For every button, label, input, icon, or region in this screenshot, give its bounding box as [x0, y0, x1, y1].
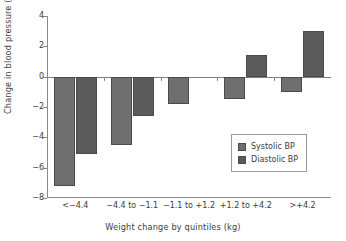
- legend-swatch-systolic-icon: [238, 143, 246, 151]
- bar-diastolic-1: [133, 77, 154, 116]
- bar-systolic-0: [54, 77, 75, 186]
- x-tick-mark-3: [217, 77, 218, 81]
- legend-label-diastolic: Diastolic BP: [251, 156, 298, 164]
- x-tick-label-4: >+4.2: [290, 202, 316, 210]
- y-tick-label: −2: [32, 103, 44, 111]
- y-tick-label: 4: [39, 12, 44, 20]
- y-tick-label: −6: [32, 164, 44, 172]
- y-axis-title: Change in blood pressure (mmHg): [3, 0, 17, 121]
- legend-item-systolic: Systolic BP: [238, 140, 298, 153]
- legend-item-diastolic: Diastolic BP: [238, 153, 298, 166]
- bar-systolic-3: [224, 77, 245, 100]
- bar-diastolic-3: [246, 55, 267, 76]
- x-tick-mark-0: [47, 77, 48, 81]
- bar-systolic-2: [168, 77, 189, 104]
- bar-systolic-1: [111, 77, 132, 145]
- x-tick-mark-4: [274, 77, 275, 81]
- x-tick-mark-1: [104, 77, 105, 81]
- x-tick-label-1: −4.4 to −1.1: [106, 202, 158, 210]
- bar-diastolic-4: [303, 31, 324, 77]
- y-tick-label: −8: [32, 194, 44, 202]
- y-tick-label: −4: [32, 133, 44, 141]
- bar-chart-figure: Change in blood pressure (mmHg) 420−2−4−…: [0, 0, 346, 241]
- legend-swatch-diastolic-icon: [238, 156, 246, 164]
- legend-label-systolic: Systolic BP: [251, 143, 295, 151]
- bar-diastolic-0: [76, 77, 97, 154]
- x-axis-line: [47, 197, 331, 198]
- x-tick-label-3: +1.2 to +4.2: [220, 202, 272, 210]
- y-tick-label: 0: [39, 73, 44, 81]
- x-axis-title: Weight change by quintiles (kg): [0, 222, 346, 232]
- bar-systolic-4: [281, 77, 302, 92]
- x-tick-label-0: <−4.4: [62, 202, 88, 210]
- x-tick-mark-2: [161, 77, 162, 81]
- y-tick-label: 2: [39, 42, 44, 50]
- chart-legend: Systolic BP Diastolic BP: [231, 134, 307, 172]
- y-axis-line: [47, 16, 48, 198]
- x-tick-label-2: −1.1 to +1.2: [163, 202, 215, 210]
